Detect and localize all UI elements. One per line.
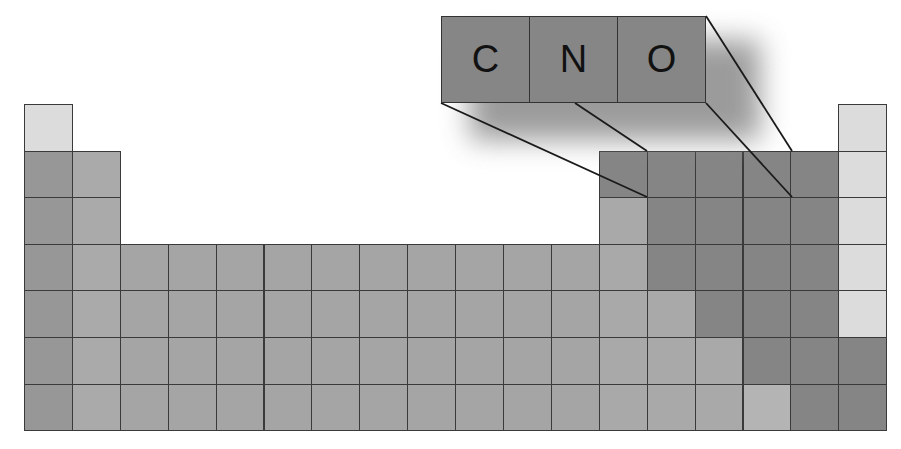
element-carbon: C <box>442 17 530 102</box>
element-cell <box>359 244 408 292</box>
element-cell <box>695 384 744 432</box>
element-cell <box>359 337 408 385</box>
element-cell <box>838 104 887 152</box>
element-cell <box>838 151 887 199</box>
element-cell <box>72 337 121 385</box>
element-cell <box>838 244 887 292</box>
element-cell <box>551 244 600 292</box>
element-cell <box>647 337 696 385</box>
element-cell <box>72 151 121 199</box>
element-cell <box>599 384 648 432</box>
element-cell <box>790 244 839 292</box>
element-cell <box>407 337 456 385</box>
element-nitrogen: N <box>530 17 618 102</box>
element-cell <box>455 384 504 432</box>
element-cell <box>647 151 696 199</box>
element-cell <box>695 337 744 385</box>
element-cell <box>838 197 887 245</box>
element-cell <box>72 244 121 292</box>
element-cell <box>72 197 121 245</box>
element-cell <box>790 151 839 199</box>
element-cell <box>599 151 648 199</box>
element-cell <box>838 290 887 338</box>
element-cell <box>120 384 169 432</box>
element-cell <box>24 337 73 385</box>
element-cell <box>503 244 552 292</box>
element-cell <box>311 290 360 338</box>
element-cell <box>838 337 887 385</box>
element-cell <box>743 337 792 385</box>
element-cell <box>503 384 552 432</box>
element-cell <box>743 384 792 432</box>
element-cell <box>311 244 360 292</box>
element-cell <box>264 290 313 338</box>
element-cell <box>72 384 121 432</box>
element-cell <box>168 337 217 385</box>
element-cell <box>455 290 504 338</box>
element-cell <box>120 244 169 292</box>
element-cell <box>264 384 313 432</box>
element-cell <box>695 244 744 292</box>
element-cell <box>455 244 504 292</box>
element-cell <box>24 151 73 199</box>
element-cell <box>599 197 648 245</box>
element-cell <box>216 384 265 432</box>
element-cell <box>647 197 696 245</box>
element-cell <box>503 337 552 385</box>
element-cell <box>551 290 600 338</box>
element-cell <box>120 337 169 385</box>
element-cell <box>695 290 744 338</box>
element-cell <box>24 244 73 292</box>
element-cell <box>599 290 648 338</box>
element-cell <box>551 384 600 432</box>
element-cell <box>72 290 121 338</box>
element-cell <box>168 290 217 338</box>
element-cell <box>311 337 360 385</box>
element-cell <box>168 244 217 292</box>
element-cell <box>168 384 217 432</box>
element-cell <box>743 197 792 245</box>
element-cell <box>695 197 744 245</box>
element-cell <box>790 197 839 245</box>
element-cell <box>743 151 792 199</box>
element-cell <box>503 290 552 338</box>
element-cell <box>24 384 73 432</box>
element-cell <box>647 290 696 338</box>
magnified-callout-cno: C N O <box>441 16 706 103</box>
element-cell <box>359 290 408 338</box>
element-cell <box>264 244 313 292</box>
element-cell <box>407 244 456 292</box>
element-oxygen: O <box>618 17 705 102</box>
element-cell <box>743 244 792 292</box>
element-cell <box>264 337 313 385</box>
element-cell <box>407 290 456 338</box>
element-cell <box>24 104 73 152</box>
element-cell <box>599 337 648 385</box>
element-cell <box>359 384 408 432</box>
element-cell <box>455 337 504 385</box>
element-cell <box>216 244 265 292</box>
element-cell <box>216 290 265 338</box>
element-cell <box>647 244 696 292</box>
element-cell <box>216 337 265 385</box>
element-cell <box>120 290 169 338</box>
element-cell <box>790 337 839 385</box>
element-cell <box>790 384 839 432</box>
element-cell <box>838 384 887 432</box>
element-cell <box>551 337 600 385</box>
element-cell <box>790 290 839 338</box>
element-cell <box>24 197 73 245</box>
element-cell <box>407 384 456 432</box>
element-cell <box>695 151 744 199</box>
element-cell <box>647 384 696 432</box>
element-cell <box>599 244 648 292</box>
element-cell <box>24 290 73 338</box>
element-cell <box>743 290 792 338</box>
element-cell <box>311 384 360 432</box>
